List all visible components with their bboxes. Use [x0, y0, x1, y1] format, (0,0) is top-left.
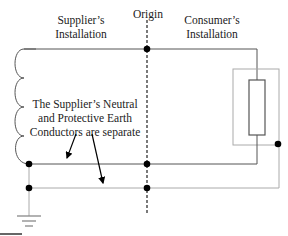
- origin-label: Origin: [133, 8, 163, 21]
- arrow-to-earth: [92, 134, 103, 183]
- origin-line-node: [144, 46, 151, 53]
- supplier-label-line1: Supplier’s: [57, 14, 105, 27]
- tn-s-earthing-diagram: Supplier’s Installation Origin Consumer’…: [0, 0, 288, 236]
- consumer-label-line2: Installation: [186, 28, 238, 40]
- enclosure-earth-node: [275, 141, 282, 148]
- source-neutral-node: [26, 161, 33, 168]
- source-earth-node: [26, 185, 33, 192]
- supplier-label-line2: Installation: [55, 28, 107, 40]
- note-line3: Conductors are separate: [30, 126, 140, 139]
- origin-earth-node: [144, 185, 151, 192]
- note-line2: and Protective Earth: [38, 112, 132, 124]
- load-resistor: [249, 80, 265, 135]
- origin-neutral-node: [144, 161, 151, 168]
- consumer-label-line1: Consumer’s: [184, 14, 240, 26]
- note-line1: The Supplier’s Neutral: [32, 98, 137, 111]
